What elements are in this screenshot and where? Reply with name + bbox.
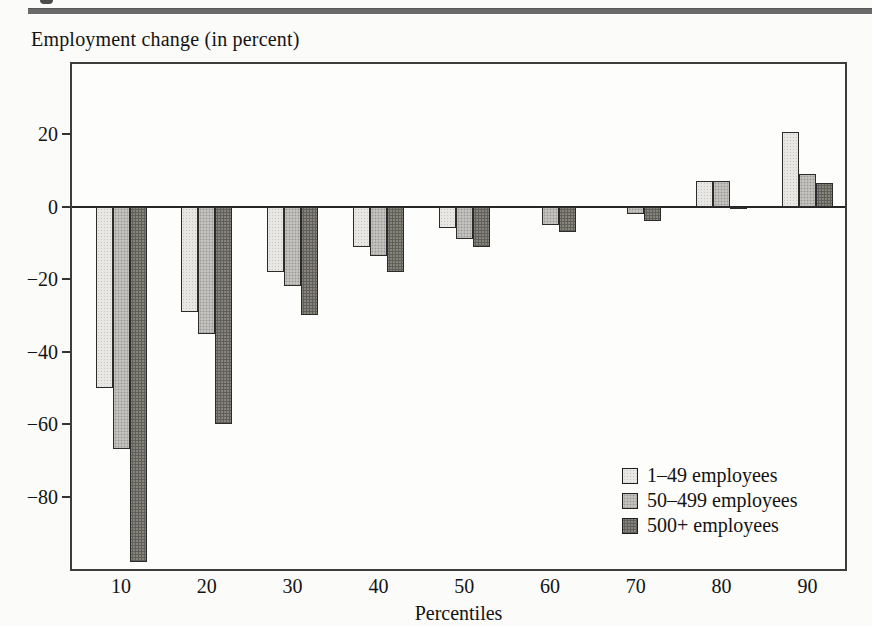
- bar-p60-series3: [559, 207, 576, 232]
- legend-item-small-firms: 1–49 employees: [622, 463, 798, 488]
- bar-p70-series3: [644, 207, 661, 221]
- legend-swatch-1-49-icon: [622, 468, 638, 484]
- bar-p90-series3: [816, 183, 833, 207]
- legend-swatch-50-499-icon: [622, 493, 638, 509]
- bar-p20-series2: [198, 207, 215, 334]
- bar-p50-series2: [456, 207, 473, 240]
- bar-p40-series1: [353, 207, 370, 247]
- y-tick-label: −60: [6, 411, 58, 437]
- y-tick-mark: [62, 496, 70, 498]
- y-tick-label: 20: [6, 121, 58, 147]
- bar-p70-series2: [627, 207, 644, 214]
- legend-label-50-499: 50–499 employees: [647, 489, 798, 512]
- x-tick-label: 30: [271, 575, 315, 598]
- plot-area: 1–49 employees 50–499 employees 500+ emp…: [70, 62, 847, 571]
- bar-p80-series1: [696, 181, 713, 206]
- y-tick-mark: [62, 351, 70, 353]
- x-tick-label: 80: [700, 575, 744, 598]
- y-tick-mark: [62, 278, 70, 280]
- y-tick-mark: [62, 423, 70, 425]
- bar-p80-series2: [713, 181, 730, 206]
- bar-p30-series1: [267, 207, 284, 272]
- bar-p40-series2: [370, 207, 387, 256]
- bar-p10-series1: [96, 207, 113, 388]
- x-tick-label: 50: [442, 575, 486, 598]
- x-axis-title: Percentiles: [72, 602, 845, 625]
- legend-swatch-500plus-icon: [622, 518, 638, 534]
- x-tick-label: 90: [785, 575, 829, 598]
- bar-p10-series3: [130, 207, 147, 562]
- x-tick-label: 70: [614, 575, 658, 598]
- bar-p40-series3: [387, 207, 404, 272]
- legend-item-large-firms: 500+ employees: [622, 513, 798, 538]
- legend-label-1-49: 1–49 employees: [647, 464, 778, 487]
- y-axis-title: Employment change (in percent): [31, 28, 300, 51]
- y-tick-mark: [62, 133, 70, 135]
- bar-p20-series3: [215, 207, 232, 424]
- bar-p90-series2: [799, 174, 816, 207]
- chart-legend: 1–49 employees 50–499 employees 500+ emp…: [622, 463, 798, 538]
- x-tick-label: 40: [356, 575, 400, 598]
- bar-p30-series3: [301, 207, 318, 316]
- bar-p60-series2: [542, 207, 559, 225]
- x-tick-label: 20: [185, 575, 229, 598]
- bar-p10-series2: [113, 207, 130, 450]
- bar-p50-series3: [473, 207, 490, 247]
- bar-p30-series2: [284, 207, 301, 287]
- y-tick-label: −20: [6, 266, 58, 292]
- legend-label-500plus: 500+ employees: [647, 514, 779, 537]
- x-tick-label: 10: [99, 575, 143, 598]
- header-rule: [28, 8, 872, 14]
- y-tick-label: −40: [6, 339, 58, 365]
- bar-p80-series3: [730, 207, 747, 209]
- y-tick-label: 0: [6, 194, 58, 220]
- y-tick-label: −80: [6, 484, 58, 510]
- x-tick-label: 60: [528, 575, 572, 598]
- bar-p90-series1: [782, 132, 799, 206]
- bar-p20-series1: [181, 207, 198, 312]
- legend-item-medium-firms: 50–499 employees: [622, 488, 798, 513]
- figure-page: { "header": { "has_top_rule": true }, "c…: [0, 0, 872, 626]
- cropped-text-fragment: [40, 0, 53, 4]
- bar-p50-series1: [439, 207, 456, 229]
- y-tick-mark: [62, 206, 70, 208]
